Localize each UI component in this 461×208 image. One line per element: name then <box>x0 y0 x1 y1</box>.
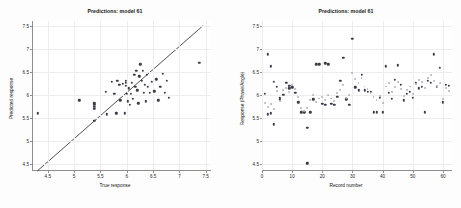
left-plot-area: 7.576.565.554.54.555.566.577.5 <box>32 21 211 171</box>
data-point <box>273 108 275 110</box>
data-point <box>418 87 420 89</box>
right-x-tick <box>413 170 414 173</box>
data-point <box>409 86 411 88</box>
right-gridline-v <box>383 21 384 171</box>
data-point <box>324 99 326 101</box>
data-point <box>330 98 332 100</box>
data-point <box>406 89 408 91</box>
data-point <box>297 101 299 103</box>
data-point <box>387 92 389 94</box>
data-point <box>367 88 369 90</box>
data-point <box>373 96 375 98</box>
data-point <box>375 111 377 113</box>
data-point <box>409 91 411 93</box>
left-y-tick-label: 6.5 <box>23 69 29 74</box>
data-point <box>294 88 296 90</box>
right-gridline-h <box>262 118 452 119</box>
left-x-tick <box>74 170 75 173</box>
data-point <box>403 99 405 101</box>
right-x-tick-label: 10 <box>290 174 295 179</box>
data-point <box>303 111 305 113</box>
right-x-tick <box>352 170 353 173</box>
data-point <box>400 83 402 85</box>
data-point <box>285 87 287 89</box>
data-point <box>379 95 381 97</box>
data-point <box>397 81 399 83</box>
right-y-tick-label: 4.5 <box>253 162 259 167</box>
data-point <box>355 78 357 80</box>
data-point <box>267 53 269 55</box>
right-x-tick-label: 0 <box>261 174 264 179</box>
right-x-axis-line <box>262 170 452 171</box>
left-y-tick <box>30 49 33 50</box>
left-y-tick-label: 5 <box>26 139 29 144</box>
data-point <box>324 104 326 106</box>
left-gridline-h <box>32 49 211 50</box>
right-x-tick <box>383 170 384 173</box>
data-point <box>276 90 278 92</box>
right-x-tick-label: 30 <box>350 174 355 179</box>
data-point <box>354 86 356 88</box>
data-point <box>273 81 275 83</box>
data-point <box>318 98 320 100</box>
data-point <box>333 104 335 106</box>
right-gridline-h <box>262 49 452 50</box>
data-point <box>442 99 444 101</box>
right-x-tick <box>292 170 293 173</box>
data-point <box>288 87 290 89</box>
data-point <box>339 89 341 91</box>
data-point <box>412 93 414 95</box>
left-y-tick <box>30 118 33 119</box>
right-gridline-h <box>262 26 452 27</box>
data-point <box>430 82 432 84</box>
left-gridline-v <box>100 21 101 171</box>
data-point <box>285 82 287 84</box>
panel-response-by-record: Predictions: model 61 7.576.565.554.5010… <box>231 0 461 208</box>
identity-line <box>32 21 211 171</box>
left-x-tick-label: 7 <box>178 174 181 179</box>
data-point <box>357 89 359 91</box>
left-x-tick <box>179 170 180 173</box>
data-point <box>370 92 372 94</box>
left-y-tick <box>30 95 33 96</box>
left-x-tick <box>48 170 49 173</box>
data-point <box>315 101 317 103</box>
data-point <box>306 107 308 109</box>
data-point <box>361 77 363 79</box>
right-y-tick-label: 6.5 <box>253 69 259 74</box>
left-gridline-v <box>206 21 207 171</box>
left-y-axis-title: Predicted response <box>9 65 14 133</box>
left-x-axis-title: True response <box>0 183 230 188</box>
right-x-tick-label: 40 <box>380 174 385 179</box>
right-y-axis-title: Response (Phase/Angle) <box>240 57 245 141</box>
data-point <box>270 103 272 105</box>
right-y-tick-label: 5 <box>256 139 259 144</box>
figure-root: Predictions: model 61 7.576.565.554.54.5… <box>0 0 461 208</box>
data-point <box>312 94 314 96</box>
left-x-tick <box>127 170 128 173</box>
left-gridline-v <box>179 21 180 171</box>
data-point <box>318 63 320 65</box>
data-point <box>345 98 347 100</box>
data-point <box>321 96 323 98</box>
right-gridline-v <box>443 21 444 171</box>
left-y-tick-label: 7 <box>26 46 29 51</box>
data-point <box>348 104 350 106</box>
data-point <box>273 123 275 125</box>
right-x-tick-label: 50 <box>410 174 415 179</box>
left-x-tick-label: 5 <box>73 174 76 179</box>
right-gridline-h <box>262 164 452 165</box>
data-point <box>297 96 299 98</box>
data-point <box>300 107 302 109</box>
right-gridline-h <box>262 95 452 96</box>
left-gridline-h <box>32 72 211 73</box>
data-point <box>312 98 314 100</box>
data-point <box>267 113 269 115</box>
panel-predicted-vs-true: Predictions: model 61 7.576.565.554.54.5… <box>0 0 230 208</box>
data-point <box>345 97 347 99</box>
left-x-tick-label: 7.5 <box>203 174 209 179</box>
data-point <box>418 79 420 81</box>
left-y-tick <box>30 72 33 73</box>
data-point <box>378 96 380 98</box>
data-point <box>282 89 284 91</box>
